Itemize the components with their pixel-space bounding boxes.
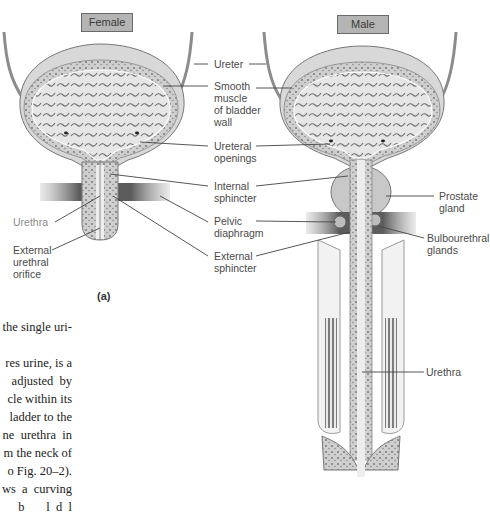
label-internal-sphincter: Internal sphincter [214, 180, 257, 204]
body-text-line: b l d l [0, 498, 72, 515]
female-bladder [4, 32, 192, 240]
label-female-urethra: Urethra [13, 216, 48, 228]
panel-letter: (a) [97, 290, 110, 302]
label-prostate-gland: Prostate gland [439, 190, 478, 214]
female-tag: Female [81, 13, 133, 32]
body-text-line: cle within its [0, 390, 72, 408]
label-ureteral-openings: Ureteral openings [214, 140, 257, 164]
label-bulbourethral-glands: Bulbourethral glands [427, 232, 489, 256]
body-text-fragment: the single uri- res urine, is a adjusted… [0, 318, 72, 515]
male-tag: Male [337, 15, 389, 34]
label-smooth-muscle: Smooth muscle of bladder wall [214, 80, 261, 128]
body-text-line: the single uri- [0, 318, 72, 336]
body-text-line: res urine, is a [0, 354, 72, 372]
label-ureter: Ureter [214, 58, 243, 70]
body-text-line: ws a curving [0, 480, 72, 498]
label-male-urethra: Urethra [426, 366, 461, 378]
body-text-line: ne urethra in [0, 426, 72, 444]
label-pelvic-diaphragm: Pelvic diaphragm [214, 215, 264, 239]
body-text-line: adjusted by [0, 372, 72, 390]
label-external-sphincter: External sphincter [214, 250, 257, 274]
body-text-line: ladder to the [0, 408, 72, 426]
body-text-line: m the neck of [0, 444, 72, 462]
body-text-line [0, 336, 72, 354]
body-text-line: o Fig. 20–2). [0, 462, 72, 480]
label-external-urethral-orifice: External urethral orifice [13, 244, 52, 280]
